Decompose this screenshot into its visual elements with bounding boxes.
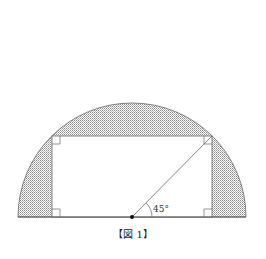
angle-label: 45° <box>153 204 169 214</box>
inscribed-rectangle <box>52 136 212 217</box>
center-point <box>130 215 134 219</box>
figure-caption: 【図 1】 <box>0 226 266 241</box>
diagram-figure: 45° <box>0 0 266 259</box>
